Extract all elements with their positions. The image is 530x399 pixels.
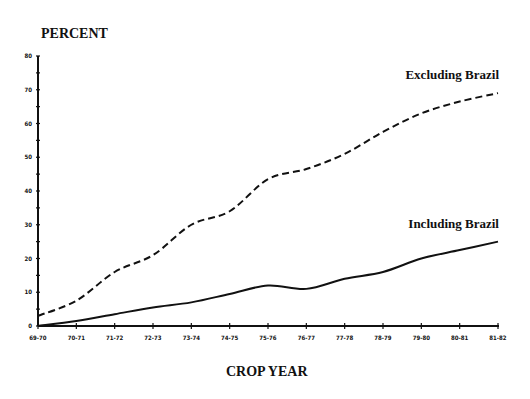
y-tick-label: 10 — [24, 288, 32, 295]
y-tick-label: 80 — [24, 52, 32, 59]
x-tick-label: 72-73 — [144, 334, 162, 341]
series-line-including-brazil — [38, 242, 498, 326]
series-lines — [38, 93, 498, 326]
x-tick-label: 76-77 — [298, 334, 316, 341]
x-tick-label: 81-82 — [489, 334, 507, 341]
y-tick-label: 40 — [24, 187, 32, 194]
x-tick-label: 73-74 — [183, 334, 201, 341]
x-tick-label: 70-71 — [68, 334, 86, 341]
y-tick-label: 60 — [24, 120, 32, 127]
x-tick-label: 77-78 — [336, 334, 354, 341]
x-tick-label: 79-80 — [413, 334, 431, 341]
x-tick-label: 75-76 — [259, 334, 277, 341]
x-tick-label: 71-72 — [106, 334, 124, 341]
y-tick-label: 30 — [24, 221, 32, 228]
x-tick-label: 74-75 — [221, 334, 239, 341]
x-tick-label: 78-79 — [374, 334, 392, 341]
y-tick-label: 20 — [24, 255, 32, 262]
y-tick-label: 0 — [28, 322, 32, 329]
series-label-excluding-brazil: Excluding Brazil — [405, 67, 499, 82]
y-tick-label: 70 — [24, 86, 32, 93]
line-chart: 0102030405060708069-7070-7171-7272-7373-… — [0, 0, 530, 399]
series-label-including-brazil: Including Brazil — [408, 216, 499, 231]
series-labels: Excluding BrazilIncluding Brazil — [405, 67, 499, 231]
x-tick-label: 80-81 — [451, 334, 469, 341]
axes: 0102030405060708069-7070-7171-7272-7373-… — [24, 52, 506, 341]
y-tick-label: 50 — [24, 153, 32, 160]
x-tick-label: 69-70 — [29, 334, 47, 341]
series-line-excluding-brazil — [38, 93, 498, 316]
